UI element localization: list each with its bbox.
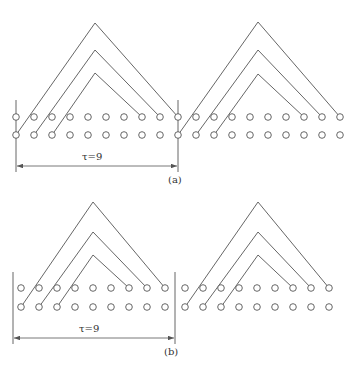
slot-circle (211, 132, 218, 139)
tau-label-a: τ=9 (82, 151, 102, 162)
slot-circle (144, 304, 151, 311)
coil-chevron (57, 255, 129, 307)
slot-circle (36, 304, 43, 311)
slot-circle (18, 285, 25, 292)
slot-circle (31, 132, 38, 139)
slot-circle (218, 304, 225, 311)
coil-chevron (39, 232, 147, 307)
slot-circle (67, 132, 74, 139)
slot-circle (326, 285, 333, 292)
slot-circle (290, 285, 297, 292)
slot-circle (200, 304, 207, 311)
slot-circle (157, 132, 164, 139)
slot-circle (301, 132, 308, 139)
slot-circle (272, 285, 279, 292)
slot-circle (85, 114, 92, 121)
slot-circle (337, 132, 344, 139)
slot-circle (54, 304, 61, 311)
slot-circle (139, 132, 146, 139)
slot-circle (218, 285, 225, 292)
slot-circle (200, 285, 207, 292)
coil-chevron (214, 74, 304, 135)
slot-circle (301, 114, 308, 121)
slot-circle (103, 114, 110, 121)
slot-circle (72, 304, 79, 311)
slot-circle (31, 114, 38, 121)
slot-circle (247, 114, 254, 121)
slot-circle (126, 285, 133, 292)
slot-circle (337, 114, 344, 121)
slot-circle (139, 114, 146, 121)
slot-circle (162, 285, 169, 292)
slot-circle (36, 285, 43, 292)
slot-circle (157, 114, 164, 121)
slot-circle (265, 114, 272, 121)
slot-circle (103, 132, 110, 139)
slot-circle (162, 304, 169, 311)
slot-circle (308, 304, 315, 311)
slot-circle (13, 114, 20, 121)
slot-circle (182, 285, 189, 292)
slot-circle (229, 114, 236, 121)
panel-a (13, 22, 344, 172)
slot-circle (182, 304, 189, 311)
slot-circle (236, 285, 243, 292)
slot-circle (193, 114, 200, 121)
coil-chevron (221, 255, 293, 307)
slot-circle (236, 304, 243, 311)
slot-circle (90, 285, 97, 292)
slot-circle (18, 304, 25, 311)
coil-chevron (52, 73, 142, 135)
panel-b (13, 202, 332, 344)
coil-chevron (178, 22, 340, 135)
slot-circle (283, 132, 290, 139)
slot-circle (272, 304, 279, 311)
slot-circle (175, 132, 182, 139)
slot-circle (308, 285, 315, 292)
slot-circle (49, 132, 56, 139)
slot-circle (72, 285, 79, 292)
slot-circle (54, 285, 61, 292)
slot-circle (211, 114, 218, 121)
coil-chevron (16, 23, 178, 135)
coil-chevron (34, 50, 160, 135)
slot-circle (108, 285, 115, 292)
slot-circle (49, 114, 56, 121)
slot-circle (265, 132, 272, 139)
slot-circle (126, 304, 133, 311)
slot-circle (67, 114, 74, 121)
chevron-winding-diagram (0, 0, 359, 375)
slot-circle (121, 114, 128, 121)
coil-chevron (196, 50, 322, 135)
slot-circle (13, 132, 20, 139)
slot-circle (193, 132, 200, 139)
slot-circle (121, 132, 128, 139)
slot-circle (326, 304, 333, 311)
slot-circle (229, 132, 236, 139)
slot-circle (85, 132, 92, 139)
slot-circle (175, 114, 182, 121)
slot-circle (90, 304, 97, 311)
slot-circle (144, 285, 151, 292)
slot-circle (247, 132, 254, 139)
caption-a: (a) (168, 174, 182, 185)
slot-circle (290, 304, 297, 311)
caption-b: (b) (164, 346, 178, 357)
tau-label-b: τ=9 (79, 323, 99, 334)
slot-circle (319, 132, 326, 139)
coil-chevron (203, 232, 311, 307)
slot-circle (254, 285, 261, 292)
slot-circle (283, 114, 290, 121)
slot-circle (319, 114, 326, 121)
slot-circle (254, 304, 261, 311)
slot-circle (108, 304, 115, 311)
